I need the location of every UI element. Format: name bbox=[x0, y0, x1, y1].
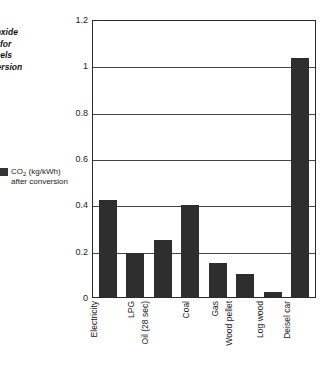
caption-line-4: after conversion bbox=[0, 62, 52, 74]
bar-series bbox=[93, 21, 315, 297]
caption-line-3: different fuels bbox=[0, 50, 52, 62]
legend-swatch-icon bbox=[0, 168, 8, 176]
x-axis-slot: Electricity bbox=[93, 299, 121, 369]
y-axis: 00.20.40.60.811.2 bbox=[58, 20, 88, 298]
x-axis-slot: Oil (28 sec) bbox=[149, 299, 177, 369]
x-axis-tick-label: Deisel car bbox=[282, 301, 292, 339]
x-axis-slot: Deisel car bbox=[287, 299, 315, 369]
bar-log-wood[interactable] bbox=[264, 292, 282, 297]
legend-label-main: CO bbox=[11, 167, 23, 176]
legend-label-sub: 2 bbox=[23, 171, 26, 177]
y-axis-tick-label: 0.2 bbox=[75, 247, 88, 257]
bar-slot bbox=[94, 21, 122, 297]
x-axis-tick-label: Wood pellet bbox=[223, 301, 233, 346]
bar-oil-28-sec[interactable] bbox=[154, 240, 172, 298]
x-axis-tick-label: Gas bbox=[210, 301, 220, 317]
x-axis-tick-label: Coal bbox=[181, 301, 191, 318]
x-axis-tick-label: LPG bbox=[126, 301, 136, 318]
bar-electricity[interactable] bbox=[99, 200, 117, 297]
x-axis-slot: Coal bbox=[176, 299, 204, 369]
legend-label: CO2 (kg/kWh) bbox=[11, 167, 61, 177]
chart-caption: Carbon dioxide emissions for different f… bbox=[0, 27, 52, 74]
plot-area bbox=[92, 20, 316, 298]
bar-slot bbox=[287, 21, 315, 297]
bar-gas[interactable] bbox=[209, 263, 227, 298]
x-axis: ElectricityLPGOil (28 sec)CoalGasWood pe… bbox=[92, 299, 316, 369]
caption-line-2: emissions for bbox=[0, 39, 52, 51]
bar-slot bbox=[122, 21, 150, 297]
bar-wood-pellet[interactable] bbox=[236, 274, 254, 297]
y-axis-tick-label: 0.8 bbox=[75, 108, 88, 118]
bar-deisel-car[interactable] bbox=[291, 58, 309, 297]
chart-title: Carbon dioxide emissions for different f… bbox=[62, 0, 312, 2]
bar-lpg[interactable] bbox=[126, 253, 144, 297]
y-axis-tick-label: 0 bbox=[83, 293, 88, 303]
x-axis-tick-label: Log wood bbox=[255, 301, 265, 338]
bar-slot bbox=[177, 21, 205, 297]
y-axis-tick-label: 0.6 bbox=[75, 154, 88, 164]
caption-line-1: Carbon dioxide bbox=[0, 27, 52, 39]
x-axis-tick-label: Oil (28 sec) bbox=[141, 301, 151, 344]
bar-coal[interactable] bbox=[181, 205, 199, 297]
legend-label-units: (kg/kWh) bbox=[26, 167, 60, 176]
bar-slot bbox=[232, 21, 260, 297]
x-axis-tick-label: Electricity bbox=[89, 301, 99, 337]
y-axis-tick-label: 0.4 bbox=[75, 200, 88, 210]
bar-slot bbox=[149, 21, 177, 297]
bar-slot bbox=[259, 21, 287, 297]
bar-slot bbox=[204, 21, 232, 297]
y-axis-tick-label: 1 bbox=[83, 61, 88, 71]
y-axis-tick-label: 1.2 bbox=[75, 15, 88, 25]
